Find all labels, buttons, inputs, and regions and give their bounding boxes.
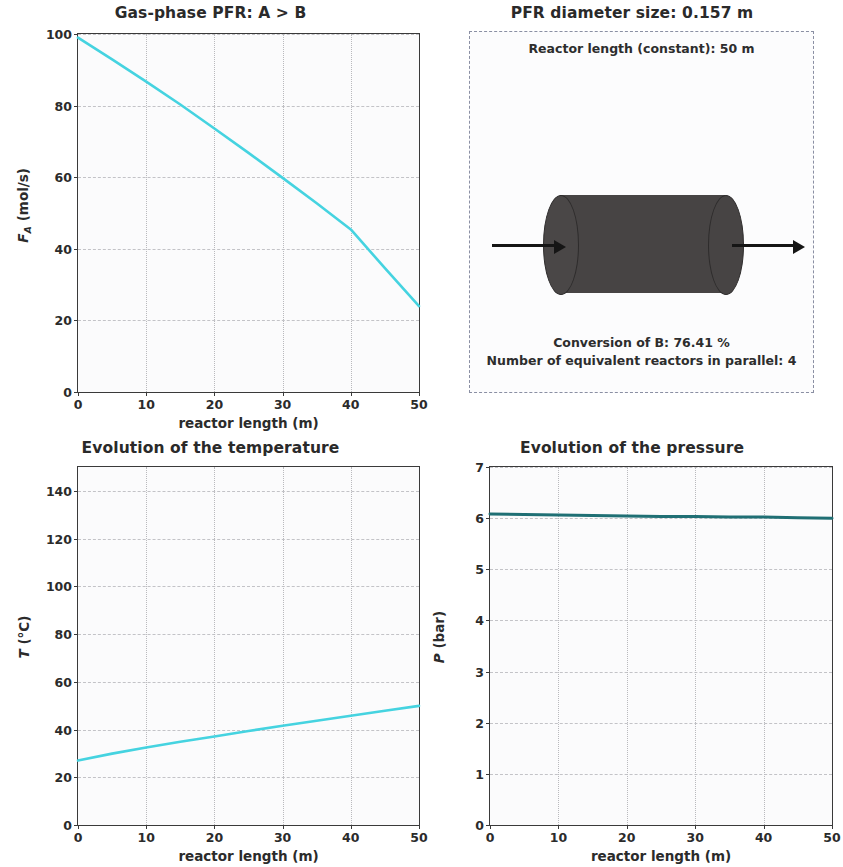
y-tick-label: 0 [475, 818, 484, 833]
panel-temperature-title: Evolution of the temperature [0, 439, 421, 457]
y-tick-label: 120 [46, 531, 72, 546]
x-tick-mark [695, 825, 696, 829]
x-tick-label: 0 [486, 830, 495, 845]
temperature-xlabel: reactor length (m) [77, 848, 420, 864]
panel-temperature: Evolution of the temperature 02040608010… [0, 433, 421, 867]
series-layer [490, 467, 832, 825]
matplotlib-figure: Gas-phase PFR: A > B 0204060801000102030… [0, 0, 843, 867]
x-tick-label: 30 [686, 830, 703, 845]
ylabel-subscript: A [22, 226, 33, 233]
y-tick-label: 4 [475, 613, 484, 628]
y-tick-label: 80 [55, 98, 72, 113]
x-tick-label: 10 [137, 397, 154, 412]
y-tick-label: 2 [475, 715, 484, 730]
data-series-line [78, 38, 419, 307]
ylabel-unit: (mol/s) [15, 168, 31, 226]
y-tick-label: 7 [475, 460, 484, 475]
ylabel-unit: (bar) [431, 611, 447, 653]
inlet-arrow [492, 244, 556, 247]
panel-reactor-diagram: PFR diameter size: 0.157 m Reactor lengt… [421, 0, 843, 433]
x-tick-label: 10 [550, 830, 567, 845]
pressure-axes: 0123456701020304050 [489, 466, 833, 826]
y-tick-label: 5 [475, 562, 484, 577]
temperature-axes: 02040608010012014001020304050 [77, 466, 420, 826]
x-tick-mark [627, 825, 628, 829]
ylabel-symbol: T [16, 649, 32, 658]
pressure-ylabel: P (bar) [431, 587, 447, 687]
x-tick-label: 20 [618, 830, 635, 845]
y-tick-label: 20 [55, 313, 72, 328]
x-tick-label: 0 [74, 397, 83, 412]
x-tick-mark [78, 392, 79, 396]
cylinder-body [560, 195, 725, 293]
molar-flow-axes: 02040608010001020304050 [77, 33, 420, 393]
x-tick-label: 40 [342, 830, 359, 845]
x-tick-mark [283, 392, 284, 396]
y-tick-label: 0 [63, 818, 72, 833]
ylabel-symbol: F [15, 233, 31, 242]
x-tick-label: 30 [274, 397, 291, 412]
y-tick-label: 80 [55, 627, 72, 642]
y-tick-label: 100 [46, 27, 72, 42]
y-tick-label: 60 [55, 170, 72, 185]
x-tick-mark [214, 825, 215, 829]
y-tick-label: 60 [55, 674, 72, 689]
x-tick-mark [146, 825, 147, 829]
series-layer [78, 34, 419, 392]
x-tick-label: 10 [137, 830, 154, 845]
x-tick-label: 50 [823, 830, 840, 845]
y-tick-label: 3 [475, 664, 484, 679]
x-tick-mark [490, 825, 491, 829]
pressure-xlabel: reactor length (m) [489, 848, 833, 864]
x-tick-label: 30 [274, 830, 291, 845]
y-tick-label: 1 [475, 766, 484, 781]
inlet-arrow-head [554, 240, 566, 254]
y-tick-label: 40 [55, 241, 72, 256]
y-tick-label: 6 [475, 511, 484, 526]
temperature-ylabel: T (°C) [16, 587, 32, 687]
y-tick-label: 140 [46, 483, 72, 498]
x-tick-mark [832, 825, 833, 829]
panel-pressure: Evolution of the pressure 01234567010203… [421, 433, 843, 867]
x-tick-mark [419, 392, 420, 396]
y-tick-label: 20 [55, 770, 72, 785]
x-tick-mark [283, 825, 284, 829]
y-tick-label: 0 [63, 385, 72, 400]
x-tick-mark [146, 392, 147, 396]
x-tick-mark [419, 825, 420, 829]
x-tick-label: 20 [206, 830, 223, 845]
panel-molar-flow: Gas-phase PFR: A > B 0204060801000102030… [0, 0, 421, 433]
x-tick-mark [78, 825, 79, 829]
y-tick-label: 40 [55, 722, 72, 737]
parallel-reactors-note: Number of equivalent reactors in paralle… [470, 353, 813, 368]
x-tick-mark [351, 825, 352, 829]
x-tick-label: 40 [755, 830, 772, 845]
top-edge-artifact [0, 0, 843, 6]
x-tick-label: 0 [74, 830, 83, 845]
x-tick-mark [351, 392, 352, 396]
reactor-cylinder [540, 195, 745, 293]
panel-reactor-title: PFR diameter size: 0.157 m [421, 4, 843, 22]
data-series-line [78, 706, 419, 761]
x-tick-label: 40 [342, 397, 359, 412]
ylabel-symbol: P [431, 653, 447, 663]
panel-pressure-title: Evolution of the pressure [421, 439, 843, 457]
reactor-axes: Reactor length (constant): 50 m Conversi… [469, 31, 814, 393]
ylabel-unit: (°C) [16, 616, 32, 650]
data-series-line [490, 514, 832, 518]
x-tick-mark [214, 392, 215, 396]
x-tick-label: 20 [206, 397, 223, 412]
outlet-arrow-head [793, 240, 805, 254]
x-tick-mark [558, 825, 559, 829]
series-layer [78, 467, 419, 825]
y-tick-label: 100 [46, 579, 72, 594]
molar-flow-xlabel: reactor length (m) [77, 415, 420, 431]
x-tick-mark [764, 825, 765, 829]
outlet-arrow [732, 244, 794, 247]
panel-molar-flow-title: Gas-phase PFR: A > B [0, 4, 421, 22]
molar-flow-ylabel: FA (mol/s) [15, 145, 34, 265]
reactor-length-note: Reactor length (constant): 50 m [470, 41, 813, 56]
conversion-note: Conversion of B: 76.41 % [470, 335, 813, 350]
